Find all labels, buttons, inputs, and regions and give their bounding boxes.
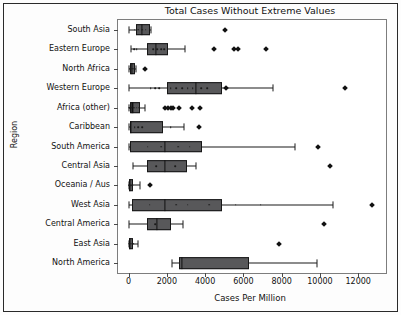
data-point	[206, 87, 208, 89]
median-line	[195, 82, 196, 94]
outlier-marker	[142, 66, 148, 72]
data-point	[153, 48, 155, 50]
y-tick-label: South America	[51, 141, 110, 150]
data-point	[156, 48, 158, 50]
whisker-high-line	[163, 127, 184, 128]
data-point	[175, 165, 177, 167]
data-point	[200, 87, 202, 89]
data-point	[154, 224, 156, 226]
figure-canvas: Total Cases Without Extreme Values Regio…	[0, 0, 401, 315]
y-tick-label: Caribbean	[69, 122, 110, 131]
y-tick-mark	[114, 224, 118, 225]
x-tick-label: 0	[126, 277, 131, 286]
data-point	[170, 126, 172, 128]
whisker-high-cap	[144, 104, 145, 111]
x-tick-label: 12000	[346, 277, 371, 286]
data-point	[189, 146, 191, 148]
x-tick-label: 2000	[157, 277, 177, 286]
whisker-high-cap	[151, 26, 152, 33]
x-tick-label: 6000	[233, 277, 253, 286]
whisker-low-cap	[172, 260, 173, 267]
y-tick-mark	[114, 108, 118, 109]
y-tick-label: West Asia	[71, 199, 110, 208]
median-line	[165, 141, 166, 153]
data-point	[260, 204, 262, 206]
whisker-low-cap	[129, 84, 130, 91]
whisker-low-line	[133, 165, 147, 166]
whisker-low-cap	[130, 46, 131, 53]
plot-area: 020004000600080001000012000	[117, 19, 387, 274]
data-point	[187, 87, 189, 89]
whisker-low-cap	[129, 221, 130, 228]
y-tick-mark	[114, 244, 118, 245]
x-axis-label: Cases Per Million	[110, 293, 390, 303]
whisker-low-cap	[128, 201, 129, 208]
outlier-marker	[369, 202, 375, 208]
data-point	[178, 146, 180, 148]
y-tick-mark	[114, 127, 118, 128]
whisker-high-cap	[272, 84, 273, 91]
data-point	[176, 204, 178, 206]
data-point	[147, 48, 149, 50]
data-point	[160, 48, 162, 50]
y-tick-label: North Africa	[62, 63, 110, 72]
y-tick-mark	[114, 147, 118, 148]
y-tick-mark	[114, 88, 118, 89]
data-point	[147, 146, 149, 148]
whisker-low-line	[129, 88, 167, 89]
data-point	[176, 87, 178, 89]
whisker-high-cap	[333, 201, 334, 208]
whisker-high-line	[168, 49, 184, 50]
y-tick-mark	[114, 263, 118, 264]
data-point	[141, 126, 143, 128]
whisker-low-line	[129, 224, 147, 225]
whisker-high-line	[249, 263, 317, 264]
median-line	[157, 219, 158, 231]
whisker-low-cap	[128, 26, 129, 33]
whisker-high-cap	[195, 162, 196, 169]
chart-title: Total Cases Without Extreme Values	[110, 5, 390, 16]
data-point	[163, 48, 165, 50]
x-tick-label: 10000	[307, 277, 332, 286]
whisker-high-cap	[294, 143, 295, 150]
data-point	[138, 126, 140, 128]
y-tick-label: East Asia	[73, 238, 110, 247]
data-point	[145, 29, 147, 31]
y-tick-label: South Asia	[67, 24, 110, 33]
y-tick-mark	[114, 30, 118, 31]
data-point	[155, 87, 157, 89]
y-tick-mark	[114, 49, 118, 50]
y-tick-mark	[114, 166, 118, 167]
whisker-high-cap	[138, 240, 139, 247]
data-point	[134, 29, 136, 31]
outlier-marker	[147, 183, 153, 189]
data-point	[134, 126, 136, 128]
box-iqr	[147, 219, 171, 231]
median-line	[165, 199, 166, 211]
whisker-low-cap	[133, 162, 134, 169]
y-tick-label-group: South AsiaEastern EuropeNorth AfricaWest…	[0, 19, 110, 272]
outlier-marker	[223, 85, 229, 91]
outlier-marker	[342, 85, 348, 91]
data-point	[141, 29, 143, 31]
outlier-marker	[197, 124, 203, 130]
median-line	[131, 121, 132, 133]
data-point	[138, 29, 140, 31]
data-point	[158, 87, 160, 89]
data-point	[187, 204, 189, 206]
data-point	[138, 107, 140, 109]
y-tick-mark	[114, 185, 118, 186]
whisker-high-cap	[184, 123, 185, 130]
data-point	[181, 87, 183, 89]
outlier-marker	[315, 144, 321, 150]
whisker-high-line	[222, 204, 333, 205]
whisker-high-line	[171, 224, 183, 225]
outlier-marker	[321, 222, 327, 228]
median-line	[182, 257, 183, 269]
box-iqr	[179, 257, 249, 269]
outlier-marker	[189, 105, 195, 111]
data-point	[136, 48, 138, 50]
y-tick-label: North America	[52, 258, 110, 267]
whisker-high-cap	[182, 221, 183, 228]
outlier-marker	[211, 46, 217, 52]
